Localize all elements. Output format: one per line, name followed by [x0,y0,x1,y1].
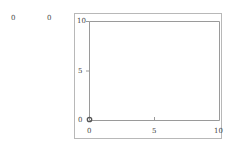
x-tick-label-5: 5 [152,127,156,135]
y-tick-label-5: 5 [78,67,82,75]
x-tick-label-0: 0 [87,127,91,135]
y-tick-label-10: 10 [77,17,86,25]
y-tick-label-0: 0 [78,116,82,124]
chart [0,0,234,149]
plot-area [86,22,220,122]
x-tick-label-10: 10 [214,127,223,135]
